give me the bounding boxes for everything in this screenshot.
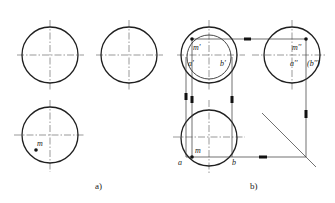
projection-diagram: m a)	[0, 0, 335, 203]
label-m-prime: m'	[193, 43, 201, 52]
point-m-double-prime	[304, 37, 308, 41]
label-m-double-prime: m''	[292, 43, 301, 52]
caption-a: a)	[95, 181, 102, 191]
marker-icon	[244, 38, 251, 41]
label-b: b	[232, 158, 236, 167]
miter-line-45deg	[262, 113, 316, 167]
marker-icon	[231, 96, 234, 103]
point-m	[34, 148, 38, 152]
marker-icon	[305, 110, 308, 118]
panel-b-front-view	[177, 20, 245, 90]
panel-a-side-view	[96, 20, 163, 90]
panel-b: m' a' b' m'' a'' (b'') m a b b)	[173, 20, 325, 191]
point-m	[190, 155, 194, 159]
label-b-double-prime: (b'')	[307, 59, 320, 68]
point-m-prime	[190, 37, 194, 41]
label-a-prime: a'	[188, 59, 194, 68]
panel-a: m a)	[14, 20, 163, 191]
label-a-double-prime: a''	[290, 59, 298, 68]
caption-b: b)	[250, 181, 258, 191]
label-m: m	[37, 139, 43, 148]
marker-icon	[185, 93, 188, 100]
label-m: m	[195, 146, 201, 155]
panel-b-side-view	[252, 20, 325, 90]
label-a: a	[178, 158, 182, 167]
panel-a-front-view	[17, 20, 84, 90]
marker-icon	[259, 156, 267, 159]
panel-a-top-view: m	[14, 100, 84, 172]
label-b-prime: b'	[220, 59, 226, 68]
marker-icon	[191, 96, 194, 103]
